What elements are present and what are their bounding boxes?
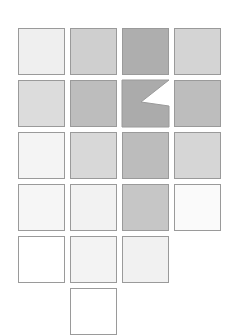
tile[interactable] — [18, 28, 65, 75]
tile[interactable] — [18, 132, 65, 179]
tile[interactable] — [70, 132, 117, 179]
notch-shape-icon — [122, 80, 169, 127]
tile[interactable] — [70, 288, 117, 335]
tile[interactable] — [70, 28, 117, 75]
tile[interactable] — [70, 236, 117, 283]
tile[interactable] — [122, 132, 169, 179]
tile[interactable] — [122, 184, 169, 231]
tile[interactable] — [174, 184, 221, 231]
tile[interactable] — [18, 184, 65, 231]
tile[interactable] — [70, 80, 117, 127]
tile[interactable] — [18, 80, 65, 127]
tile[interactable] — [70, 184, 117, 231]
notched-tile[interactable] — [122, 80, 169, 127]
tile[interactable] — [174, 80, 221, 127]
tile[interactable] — [122, 28, 169, 75]
tile[interactable] — [174, 132, 221, 179]
tile[interactable] — [122, 236, 169, 283]
notch-outline — [122, 80, 169, 127]
tile[interactable] — [18, 236, 65, 283]
tile[interactable] — [174, 28, 221, 75]
